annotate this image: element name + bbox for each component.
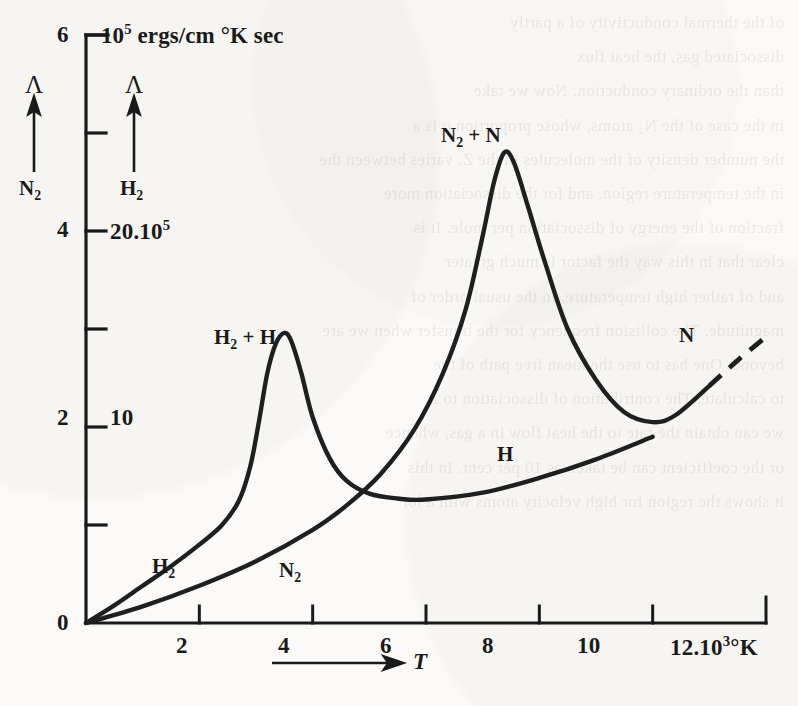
curve-label-n2-peak: N2 + N xyxy=(441,125,501,150)
axis-lines xyxy=(86,35,766,623)
curve-label-n2-low: N2 xyxy=(279,560,301,585)
y-tick-label-2: 2 xyxy=(57,406,69,429)
y-axis-symbol-h2: Λ xyxy=(125,72,143,97)
y-tick-label-0: 0 xyxy=(57,611,69,634)
curve-n2-extrapolation-dashed xyxy=(709,337,766,386)
y-axis-series-h2: H2 xyxy=(120,178,143,203)
x-tick-label-2: 2 xyxy=(176,634,188,657)
y-tick-label-10: 10 xyxy=(110,406,133,429)
y-axis-unit-label: 105 ergs/cm °K sec xyxy=(101,22,284,47)
curve-label-h2-peak: H2 + H xyxy=(214,327,276,352)
x-tick-label-8: 8 xyxy=(482,634,494,657)
y-tick-label-6: 6 xyxy=(57,23,69,46)
curve-label-n-branch: N xyxy=(679,325,694,346)
y-axis-symbol-n2: Λ xyxy=(25,72,43,97)
y-axis-arrow-h2 xyxy=(129,97,140,172)
x-tick-label-6: 6 xyxy=(380,634,392,657)
x-axis-arrow-t xyxy=(272,657,403,670)
x-axis-ticks xyxy=(199,597,766,623)
y-axis-arrow-n2 xyxy=(29,97,40,172)
x-tick-label-10: 10 xyxy=(577,634,600,657)
x-axis-symbol-t: T xyxy=(413,650,427,673)
y-axis-ticks xyxy=(86,35,108,525)
curve-label-h-branch: H xyxy=(497,444,513,465)
y-tick-label-20: 20.105 xyxy=(110,218,170,243)
scanned-figure-page: of the thermal conductivity of a partlyd… xyxy=(0,0,798,706)
y-axis-series-n2: N2 xyxy=(19,178,41,203)
chart-svg xyxy=(0,0,798,706)
curve-label-h2-low: H2 xyxy=(152,556,175,581)
x-tick-label-end: 12.103°K xyxy=(670,634,758,659)
curve-n2-plus-n xyxy=(86,151,709,623)
x-tick-label-4: 4 xyxy=(278,634,290,657)
y-tick-label-4: 4 xyxy=(57,218,69,241)
figure-chart xyxy=(0,0,798,706)
